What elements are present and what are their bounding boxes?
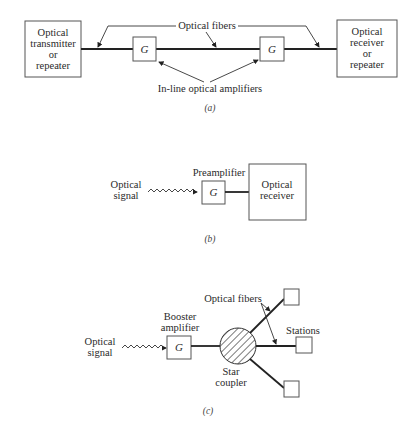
receiver-label-4: repeater <box>350 59 384 70</box>
receiver-label-3: or <box>363 48 372 59</box>
optical-signal-wave-icon <box>148 189 197 192</box>
receiver-label-1: Optical <box>352 26 383 37</box>
amplifier-gain-symbol: G <box>268 43 276 55</box>
station-top <box>284 289 299 305</box>
panel-a: Optical transmitter or repeater G G Opti… <box>25 20 397 114</box>
optical-fibers-label: Optical fibers <box>204 293 261 304</box>
booster-amplifier-label-1: Booster <box>164 311 197 322</box>
receiver-label-2: receiver <box>350 37 384 48</box>
amplifier-gain-symbol: G <box>141 43 149 55</box>
fiber-pointer-middle <box>206 32 216 47</box>
caption-a: (a) <box>204 103 215 114</box>
amplifier-gain-symbol: G <box>210 186 218 198</box>
transmitter-label-1: Optical <box>38 27 69 38</box>
caption-c: (c) <box>203 406 214 417</box>
optical-signal-label-1: Optical <box>111 179 142 190</box>
optical-fibers-label: Optical fibers <box>178 20 235 31</box>
transmitter-label-3: or <box>49 49 58 60</box>
preamplifier-label: Preamplifier <box>193 167 246 178</box>
optical-receiver-label-1: Optical <box>262 179 293 190</box>
fiber-to-station-top <box>250 299 284 333</box>
amplifier-pointer-left <box>159 62 204 82</box>
inline-amplifiers-label: In-line optical amplifiers <box>158 83 262 94</box>
amplifier-pointer-right <box>210 60 258 82</box>
amplifier-gain-symbol: G <box>175 341 183 353</box>
optical-amplifier-diagram: Optical transmitter or repeater G G Opti… <box>0 0 420 428</box>
optical-signal-label-1: Optical <box>85 336 116 347</box>
star-coupler-label-2: coupler <box>215 377 247 388</box>
station-bottom <box>284 381 299 397</box>
transmitter-label-2: transmitter <box>30 38 76 49</box>
stations-label: Stations <box>286 325 320 336</box>
optical-signal-wave-icon <box>122 345 166 348</box>
star-coupler-label-1: Star <box>223 366 240 377</box>
transmitter-label-4: repeater <box>36 60 70 71</box>
fiber-to-station-bottom <box>250 359 284 388</box>
caption-b: (b) <box>204 234 215 245</box>
optical-receiver-label-2: receiver <box>260 190 294 201</box>
optical-signal-label-2: signal <box>87 347 112 358</box>
panel-b: Optical signal Preamplifier G Optical re… <box>111 164 306 245</box>
booster-amplifier-label-2: amplifier <box>161 322 200 333</box>
station-middle <box>296 337 312 353</box>
panel-c: Optical signal Booster amplifier G Star … <box>85 289 320 417</box>
optical-signal-label-2: signal <box>113 190 138 201</box>
